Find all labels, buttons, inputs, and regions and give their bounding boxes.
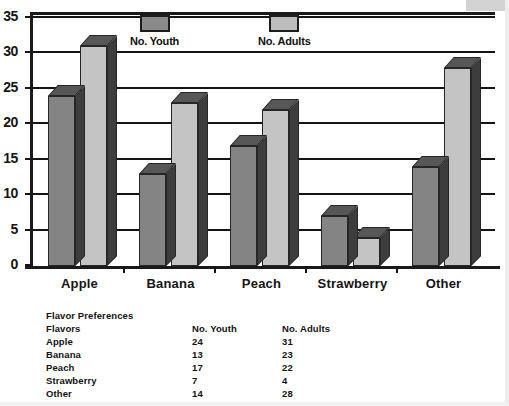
table-row: Peach1722 <box>46 362 372 375</box>
table-cell-youth: 13 <box>192 349 282 361</box>
bar-front-face <box>412 167 439 266</box>
bar-strawberry-youth <box>321 216 348 266</box>
table-header-flavors: Flavors <box>46 323 192 335</box>
table-row: Apple2431 <box>46 336 372 349</box>
y-tick-label-30: 30 <box>3 44 18 58</box>
y-tick-label-35: 35 <box>3 9 18 23</box>
bar-peach-youth <box>230 146 257 266</box>
table-body: Apple2431Banana1323Peach1722Strawberry74… <box>46 336 372 401</box>
plot-area: 05101520253035 No. Youth No. Adults <box>30 12 495 269</box>
bar-side-face <box>257 136 267 266</box>
x-axis-label-apple: Apple <box>61 276 98 291</box>
y-tick-label-15: 15 <box>3 150 18 164</box>
y-tick-25: 25 <box>25 87 31 89</box>
table-cell-adults: 31 <box>282 336 372 348</box>
x-tick-1 <box>214 266 216 273</box>
table-row: Strawberry74 <box>46 375 372 388</box>
y-tick-20: 20 <box>25 122 31 124</box>
x-tick-0 <box>123 266 125 273</box>
bar-banana-youth <box>139 174 166 266</box>
x-axis-label-strawberry: Strawberry <box>318 276 388 291</box>
scan-artifact-corner <box>466 0 509 11</box>
bar-front-face <box>321 216 348 266</box>
data-table: Flavor Preferences Flavors No. Youth No.… <box>46 310 372 401</box>
table-cell-flavor: Other <box>46 388 192 400</box>
chart-page: 05101520253035 No. Youth No. Adults Appl… <box>0 0 509 406</box>
y-tick-label-20: 20 <box>3 115 18 129</box>
table-cell-youth: 17 <box>192 362 282 374</box>
x-axis-label-peach: Peach <box>242 276 281 291</box>
bar-side-face <box>439 157 449 266</box>
table-title: Flavor Preferences <box>46 310 133 322</box>
table-cell-flavor: Strawberry <box>46 375 192 387</box>
table-header-youth: No. Youth <box>192 323 282 335</box>
scan-artifact-bottom-edge <box>0 402 509 406</box>
bar-side-face <box>166 164 176 266</box>
table-cell-adults: 23 <box>282 349 372 361</box>
y-tick-15: 15 <box>25 158 31 160</box>
bar-front-face <box>48 96 75 266</box>
bar-other-youth <box>412 167 439 266</box>
table-cell-youth: 14 <box>192 388 282 400</box>
bar-front-face <box>139 174 166 266</box>
table-cell-youth: 24 <box>192 336 282 348</box>
bar-side-face <box>289 100 299 266</box>
legend-label-adults: No. Adults <box>258 35 311 47</box>
table-cell-adults: 22 <box>282 362 372 374</box>
table-cell-youth: 7 <box>192 375 282 387</box>
x-axis-label-banana: Banana <box>146 276 194 291</box>
table-header-row: Flavors No. Youth No. Adults <box>46 323 372 336</box>
legend-label-youth: No. Youth <box>130 35 179 47</box>
table-cell-flavor: Banana <box>46 349 192 361</box>
table-row: Banana1323 <box>46 349 372 362</box>
table-cell-adults: 28 <box>282 388 372 400</box>
x-axis-line <box>25 266 500 269</box>
y-tick-5: 5 <box>25 229 31 231</box>
y-tick-35: 35 <box>25 16 31 18</box>
x-axis-label-other: Other <box>426 276 462 291</box>
table-header-adults: No. Adults <box>282 323 372 335</box>
legend-swatch-youth <box>140 15 170 32</box>
bar-front-face <box>230 146 257 266</box>
bar-side-face <box>198 93 208 266</box>
table-cell-adults: 4 <box>282 375 372 387</box>
bar-side-face <box>348 206 358 266</box>
x-tick-2 <box>305 266 307 273</box>
y-tick-label-0: 0 <box>11 257 18 271</box>
table-cell-flavor: Peach <box>46 362 192 374</box>
legend-item-youth: No. Youth <box>130 15 179 47</box>
y-tick-0: 0 <box>25 264 31 266</box>
table-cell-flavor: Apple <box>46 336 192 348</box>
y-tick-label-5: 5 <box>11 221 18 235</box>
x-tick-3 <box>396 266 398 273</box>
scan-artifact-right-edge <box>505 0 509 406</box>
table-title-row: Flavor Preferences <box>46 310 372 323</box>
legend-item-adults: No. Adults <box>258 15 311 47</box>
bar-apple-youth <box>48 96 75 266</box>
legend-swatch-adults <box>269 15 299 32</box>
y-tick-label-25: 25 <box>3 80 18 94</box>
bar-side-face <box>75 86 85 266</box>
y-tick-label-10: 10 <box>3 186 18 200</box>
table-row: Other1428 <box>46 388 372 401</box>
y-tick-30: 30 <box>25 51 31 53</box>
bar-side-face <box>471 58 481 266</box>
y-tick-10: 10 <box>25 193 31 195</box>
bar-side-face <box>107 36 117 266</box>
